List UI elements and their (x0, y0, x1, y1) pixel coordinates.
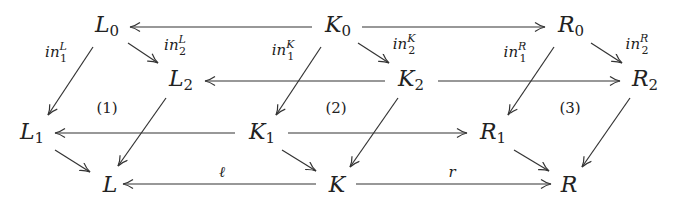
label-ell: ℓ (219, 165, 225, 180)
arrow-K1-K (282, 150, 316, 171)
commutative-diagram: L0 K0 R0 L2 K2 R2 L1 K1 R1 L K R inL1 in… (0, 0, 678, 203)
node-R1-base: R (480, 119, 497, 144)
node-K1-sub: 1 (265, 129, 275, 147)
node-K0-base: K (325, 12, 341, 37)
node-L0-sub: 0 (110, 22, 120, 40)
label-in2K: inK2 (393, 33, 416, 56)
arrow-R2-R (582, 98, 630, 167)
node-K1-base: K (249, 119, 265, 144)
node-L: L (103, 174, 118, 196)
node-L1-base: L (20, 119, 35, 144)
node-K2-base: K (398, 66, 414, 91)
label-r: r (448, 165, 455, 180)
node-L0-base: L (95, 12, 110, 37)
label-in1K: inK1 (272, 39, 295, 62)
node-L-base: L (103, 172, 118, 197)
node-K2-sub: 2 (414, 76, 424, 94)
node-K-base: K (329, 172, 345, 197)
node-R0-sub: 0 (575, 22, 585, 40)
arrow-R1-R (514, 150, 549, 171)
node-K0: K0 (325, 14, 351, 39)
node-K0-sub: 0 (341, 22, 351, 40)
node-K: K (329, 174, 345, 196)
node-L2: L2 (169, 68, 193, 93)
arrow-L2-L (118, 98, 166, 166)
node-R2-sub: 2 (649, 76, 659, 94)
node-K1: K1 (249, 121, 275, 146)
label-in1L: inL1 (45, 41, 67, 64)
label-in2L: inL2 (164, 34, 186, 57)
arrow-K0-K2 (358, 43, 389, 63)
arrow-L1-L (55, 150, 90, 172)
node-R0-base: R (558, 12, 575, 37)
arrow-L0-L2 (128, 43, 158, 63)
node-L1-sub: 1 (35, 129, 45, 147)
region-label-1: (1) (96, 99, 117, 117)
arrow-R0-R2 (591, 43, 622, 63)
node-L1: L1 (20, 121, 44, 146)
node-R: R (561, 174, 578, 196)
node-R-base: R (561, 172, 578, 197)
node-R0: R0 (558, 14, 584, 39)
node-L0: L0 (95, 14, 119, 39)
region-label-3: (3) (559, 99, 580, 117)
node-R2-base: R (632, 66, 649, 91)
node-R1: R1 (480, 121, 506, 146)
node-R1-sub: 1 (497, 129, 507, 147)
node-L2-sub: 2 (184, 76, 194, 94)
label-in2R: inR2 (626, 33, 649, 56)
region-label-2: (2) (325, 99, 346, 117)
node-L2-base: L (169, 66, 184, 91)
node-K2: K2 (398, 68, 424, 93)
node-R2: R2 (632, 68, 658, 93)
label-in1R: inR1 (504, 41, 527, 64)
